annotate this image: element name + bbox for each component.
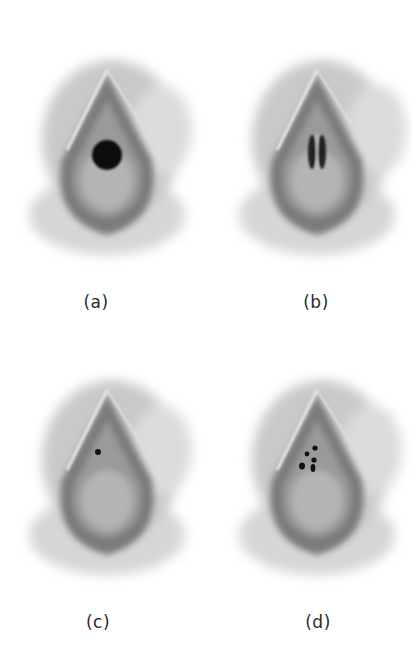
illustration-a [12, 30, 202, 280]
figure-panel-d: (d) [222, 350, 412, 650]
figure-panel-a: (a) [12, 30, 202, 330]
opening-septate-pair [308, 134, 326, 170]
panel-label-c: (c) [68, 612, 128, 632]
panel-label-d: (d) [288, 612, 348, 632]
opening-large-round [92, 140, 122, 170]
illustration-b [222, 30, 412, 280]
opening-tiny [95, 449, 101, 455]
figure-panel-c: (c) [12, 350, 202, 650]
figure-panel-b: (b) [222, 30, 412, 330]
panel-label-b: (b) [286, 292, 346, 312]
illustration-d [222, 350, 412, 600]
illustration-c [12, 350, 202, 600]
panel-label-a: (a) [66, 292, 126, 312]
